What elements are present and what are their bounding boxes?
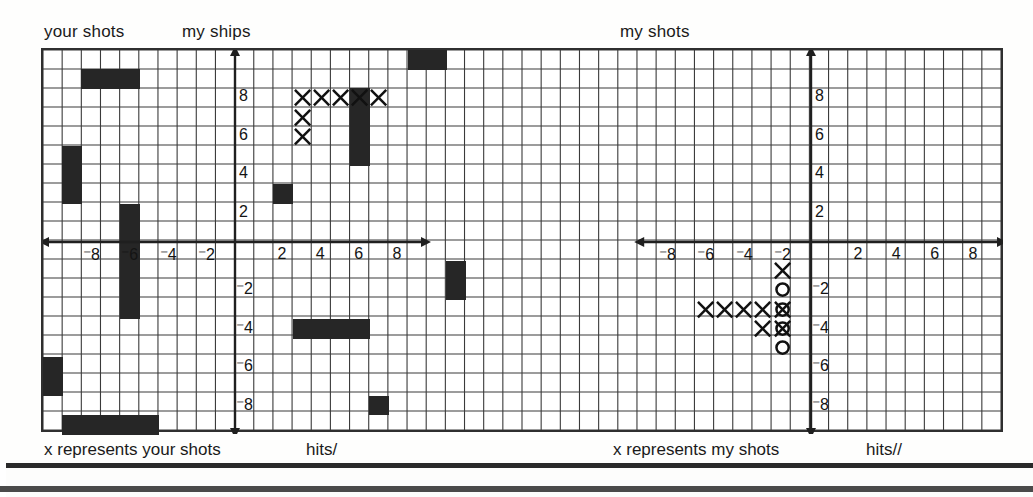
x-tick-label: ⁻8: [83, 245, 100, 264]
y-tick-label: ⁻4: [812, 318, 829, 337]
y-tick-label: ⁻6: [236, 356, 253, 375]
y-tick-label: 4: [239, 164, 248, 182]
caption-right: x represents my shots: [613, 440, 779, 460]
x-tick-label: ⁻4: [160, 245, 177, 264]
x-tick-label: ⁻6: [697, 245, 714, 264]
y-tick-label: 4: [815, 164, 824, 182]
y-tick-label: 8: [239, 87, 248, 105]
y-tick-label: 8: [815, 87, 824, 105]
shot-mark-o-icon: [773, 300, 792, 319]
page-bottom-edge: [0, 486, 1033, 492]
x-tick-label: ⁻2: [198, 245, 215, 264]
x-tick-label: 8: [969, 245, 978, 263]
header-my-ships: my ships: [182, 22, 251, 42]
shot-mark-x-icon: [293, 127, 312, 146]
header-my-shots: my shots: [620, 22, 690, 42]
x-tick-label: 2: [853, 245, 862, 263]
x-tick-label: ⁻4: [736, 245, 753, 264]
y-tick-label: ⁻6: [812, 356, 829, 375]
shot-mark-x-icon: [293, 88, 312, 107]
caption-left: x represents your shots: [44, 440, 221, 460]
x-tick-label: 6: [930, 245, 939, 263]
worksheet-page: your shots my ships my shots ⁻8⁻6⁻4⁻2246…: [0, 0, 1033, 497]
x-tick-label: ⁻6: [121, 245, 138, 264]
axis-pair: [43, 50, 1003, 434]
coordinate-grid: ⁻8⁻6⁻4⁻224688642⁻2⁻4⁻6⁻8⁻8⁻6⁻4⁻224688642…: [41, 48, 1003, 432]
x-tick-label: 4: [892, 245, 901, 263]
shot-mark-o-icon: [773, 280, 792, 299]
x-tick-label: 4: [316, 245, 325, 263]
y-tick-label: 2: [815, 203, 824, 221]
y-tick-label: 2: [239, 203, 248, 221]
x-tick-label: 8: [393, 245, 402, 263]
shot-mark-x-icon: [753, 300, 772, 319]
x-tick-label: 6: [354, 245, 363, 263]
shot-mark-x-icon: [773, 261, 792, 280]
shot-mark-x-icon: [753, 319, 772, 338]
y-tick-label: ⁻8: [812, 395, 829, 414]
shot-mark-x-icon: [312, 88, 331, 107]
shot-mark-x-icon: [369, 88, 388, 107]
shot-mark-x-icon: [293, 108, 312, 127]
x-tick-label: 2: [277, 245, 286, 263]
caption-left-hits: hits/: [306, 440, 337, 460]
y-tick-label: ⁻4: [236, 318, 253, 337]
y-tick-label: ⁻2: [236, 279, 253, 298]
shot-mark-x-icon: [350, 88, 369, 107]
y-tick-label: 6: [239, 126, 248, 144]
shot-mark-x-icon: [715, 300, 734, 319]
y-tick-label: ⁻8: [236, 395, 253, 414]
x-tick-label: ⁻8: [659, 245, 676, 264]
sheet-body: your shots my ships my shots ⁻8⁻6⁻4⁻2246…: [0, 0, 1033, 468]
shot-mark-o-icon: [773, 319, 792, 338]
caption-right-hits: hits//: [866, 440, 902, 460]
shot-mark-x-icon: [331, 88, 350, 107]
header-your-shots: your shots: [44, 22, 124, 42]
shot-mark-x-icon: [696, 300, 715, 319]
shot-mark-x-icon: [734, 300, 753, 319]
y-tick-label: 6: [815, 126, 824, 144]
shot-mark-o-icon: [773, 338, 792, 357]
y-tick-label: ⁻2: [812, 279, 829, 298]
